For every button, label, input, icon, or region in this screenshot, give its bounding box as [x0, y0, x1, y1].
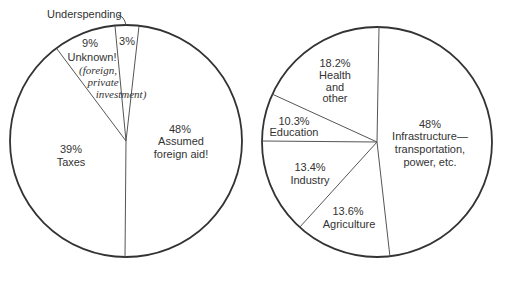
aid-pct: 48% — [169, 123, 191, 135]
health-pct: 18.2% — [319, 57, 350, 69]
unknown-label: Unknown! — [68, 51, 117, 63]
slice-3-pct: 3% — [119, 35, 135, 47]
infra-pct: 48% — [419, 118, 441, 130]
health-label-1: Health — [319, 69, 351, 81]
unknown-pct: 9% — [82, 37, 98, 49]
industry-pct: 13.4% — [294, 161, 325, 173]
aid-label-1: Assumed — [158, 135, 204, 147]
unknown-sub-3: investment) — [96, 88, 147, 101]
aid-label-2: foreign aid! — [154, 148, 208, 160]
underspending-label: Underspending — [47, 8, 122, 20]
pie-charts: Underspending 3% 9% Unknown! (foreign, p… — [0, 0, 505, 282]
health-label-3: other — [322, 92, 347, 104]
tax-label: Taxes — [57, 156, 86, 168]
infra-label-2: transportation, — [395, 143, 465, 155]
industry-label: Industry — [290, 174, 330, 186]
infra-label-1: Infrastructure— — [392, 130, 468, 142]
agriculture-pct: 13.6% — [332, 205, 363, 217]
unknown-sub-2: private — [86, 76, 118, 88]
tax-pct: 39% — [60, 143, 82, 155]
left-pie: Underspending 3% 9% Unknown! (foreign, p… — [10, 8, 242, 257]
agriculture-label: Agriculture — [323, 218, 376, 230]
infra-label-3: power, etc. — [403, 156, 456, 168]
edu-label: Education — [270, 126, 319, 138]
right-pie: 18.2% Health and other 10.3% Education 4… — [262, 27, 492, 257]
